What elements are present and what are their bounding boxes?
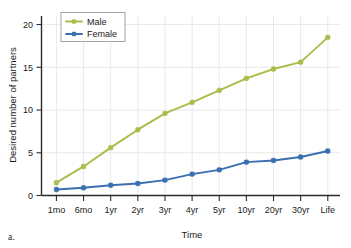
- data-point-marker: [271, 158, 275, 162]
- figure-panel: 05101520 1mo6mo1yr2yr3yr4yr5yr10yr20yr30…: [0, 0, 351, 248]
- legend: MaleFemale: [61, 13, 125, 42]
- y-tick-label: 0: [28, 191, 33, 201]
- line-chart: 05101520 1mo6mo1yr2yr3yr4yr5yr10yr20yr30…: [0, 0, 351, 248]
- y-tick-label: 10: [23, 105, 33, 115]
- legend-swatch-marker-female: [72, 32, 76, 36]
- data-point-marker: [163, 178, 167, 182]
- x-axis-title: Time: [182, 229, 203, 240]
- data-point-marker: [298, 155, 302, 159]
- y-tick-label: 5: [28, 148, 33, 158]
- data-point-marker: [136, 181, 140, 185]
- gridlines-group: [42, 16, 341, 196]
- data-point-marker: [326, 149, 330, 153]
- x-tick-label: 3yr: [159, 205, 172, 215]
- y-tick-label: 20: [23, 20, 33, 30]
- x-tick-label: 1yr: [104, 205, 117, 215]
- data-point-marker: [271, 67, 275, 71]
- x-tick-label: 4yr: [186, 205, 199, 215]
- data-point-marker: [163, 111, 167, 115]
- data-point-marker: [217, 88, 221, 92]
- data-point-marker: [81, 186, 85, 190]
- legend-label-male: Male: [87, 17, 107, 27]
- data-point-marker: [244, 160, 248, 164]
- x-tick-label: 1mo: [48, 205, 66, 215]
- y-axis-title: Desired number of partners: [7, 47, 18, 163]
- data-point-marker: [54, 187, 58, 191]
- panel-label: a.: [8, 232, 15, 242]
- data-point-marker: [109, 183, 113, 187]
- x-tick-label: 5yr: [213, 205, 226, 215]
- data-point-marker: [326, 35, 330, 39]
- x-tick-label: 30yr: [292, 205, 310, 215]
- x-tick-label: 10yr: [238, 205, 256, 215]
- data-point-marker: [81, 164, 85, 168]
- y-tick-label: 15: [23, 63, 33, 73]
- data-point-marker: [190, 100, 194, 104]
- legend-swatch-marker-male: [72, 19, 76, 23]
- x-tick-label: 20yr: [265, 205, 283, 215]
- data-point-marker: [190, 172, 194, 176]
- x-tick-label: 2yr: [132, 205, 145, 215]
- legend-label-female: Female: [87, 29, 117, 39]
- data-point-marker: [109, 145, 113, 149]
- data-point-marker: [244, 76, 248, 80]
- data-point-marker: [298, 60, 302, 64]
- x-tick-label: Life: [321, 205, 336, 215]
- x-axis-ticks-group: 1mo6mo1yr2yr3yr4yr5yr10yr20yr30yrLife: [48, 196, 335, 216]
- y-axis-ticks-group: 05101520: [23, 20, 42, 201]
- data-point-marker: [217, 168, 221, 172]
- x-tick-label: 6mo: [75, 205, 93, 215]
- data-point-marker: [54, 180, 58, 184]
- data-point-marker: [136, 127, 140, 131]
